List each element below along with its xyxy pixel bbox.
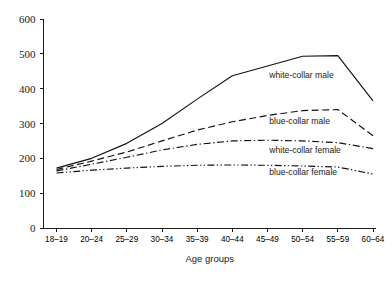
y-tick-label: 400 <box>19 83 36 95</box>
y-tick-label: 100 <box>19 187 36 199</box>
y-tick-label: 200 <box>19 152 36 164</box>
series-inline-labels: white-collar maleblue-collar malewhite-c… <box>268 70 341 177</box>
y-axis-ticks: 0100200300400500600 <box>19 13 44 234</box>
series-label-white-collar-female: white-collar female <box>268 145 341 155</box>
x-axis-title: Age groups <box>185 253 234 264</box>
x-tick-label: 55–59 <box>326 235 349 244</box>
x-tick-label: 20–24 <box>80 235 103 244</box>
y-tick-label: 500 <box>19 48 36 60</box>
x-tick-label: 30–34 <box>151 235 174 244</box>
series-label-white-collar-male: white-collar male <box>268 70 334 80</box>
x-tick-label: 35–39 <box>186 235 209 244</box>
x-tick-label: 18–19 <box>45 235 68 244</box>
x-tick-label: 40–44 <box>221 235 244 244</box>
series-label-blue-collar-female: blue-collar female <box>269 167 337 177</box>
x-tick-label: 25–29 <box>115 235 138 244</box>
x-tick-label: 60–64 <box>362 235 385 244</box>
series-label-blue-collar-male: blue-collar male <box>269 116 330 126</box>
x-tick-label: 50–54 <box>291 235 314 244</box>
y-tick-label: 300 <box>19 118 36 130</box>
y-tick-label: 0 <box>30 222 36 234</box>
chart-canvas: 0100200300400500600 18–1920–2425–2930–34… <box>0 0 392 283</box>
x-axis-ticks: 18–1920–2425–2930–3435–3940–4445–4950–54… <box>45 228 385 244</box>
y-tick-label: 600 <box>19 13 36 25</box>
line-chart-figure: 0100200300400500600 18–1920–2425–2930–34… <box>0 0 392 283</box>
x-tick-label: 45–49 <box>256 235 279 244</box>
